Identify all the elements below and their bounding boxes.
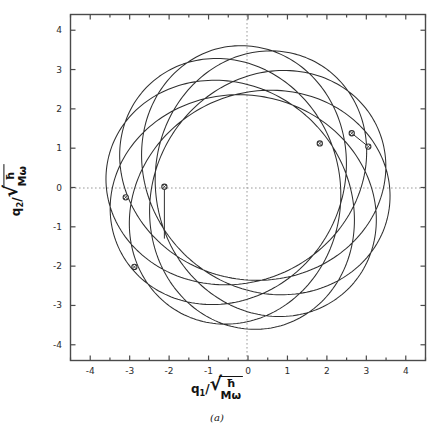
y-tick-label: -1 [44,222,62,231]
y-axis-title: q2/ħMω [3,164,28,216]
x-tick-label: 3 [363,367,369,376]
y-tick-label: 0 [44,183,62,192]
y-tick-label: -3 [44,301,62,310]
y-radicand-denominator: Mω [17,166,29,187]
y-tick-label: -2 [44,262,62,271]
x-axis-radical: ħMω [210,376,244,401]
y-tick-label: 1 [44,144,62,153]
y-axis-symbol: q2 [10,202,24,216]
x-tick-label: -4 [86,367,95,376]
y-tick-label: 4 [44,26,62,35]
x-tick-label: 2 [324,367,330,376]
y-axis-radical: ħMω [3,164,28,198]
x-tick-label: 0 [245,367,251,376]
x-axis-title: q1/ħMω [191,376,243,401]
x-tick-label: -3 [125,367,134,376]
x-tick-label: 4 [403,367,409,376]
x-radicand-numerator: ħ [221,378,242,390]
y-tick-label: 3 [44,65,62,74]
y-tick-label: -4 [44,340,62,349]
y-axis-divider: / [10,197,24,201]
x-axis-symbol: q1 [191,382,205,396]
x-tick-label: 1 [285,367,291,376]
y-radicand-numerator: ħ [5,166,17,187]
x-radicand-denominator: Mω [221,390,242,402]
x-tick-label: -2 [165,367,174,376]
panel-caption: (a) [210,412,224,423]
y-tick-label: 2 [44,104,62,113]
